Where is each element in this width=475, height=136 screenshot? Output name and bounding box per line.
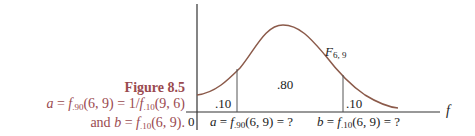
origin-label: 0 xyxy=(188,114,195,130)
area-label-right: .10 xyxy=(346,96,362,112)
area-label-center: .80 xyxy=(277,77,293,93)
critical-value-b-label: b = f.10(6, 9) = ? xyxy=(317,114,400,130)
x-axis-label: f xyxy=(446,103,450,119)
curve-label: F6, 9 xyxy=(325,44,346,60)
area-label-left: .10 xyxy=(215,96,231,112)
critical-value-a-label: a = f.90(6, 9) = ? xyxy=(210,114,293,130)
